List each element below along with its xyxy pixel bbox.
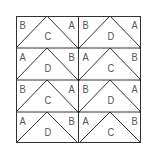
tile-label-left: B (20, 20, 26, 31)
tile-label-left: B (20, 84, 26, 95)
grid-lines (16, 16, 141, 143)
tile-label-left: B (83, 84, 89, 95)
tile-label-left: A (20, 52, 26, 63)
tile-label-center: C (108, 127, 115, 138)
tile-label-right: A (69, 20, 75, 31)
tile-label-center: D (45, 63, 52, 74)
tile-label-right: B (69, 52, 75, 63)
tile-label-center: C (45, 95, 52, 106)
triangle-tile-grid: B C A B D A A D B A C B B C A B D A A D … (16, 16, 141, 143)
tile-label-right: A (132, 20, 138, 31)
tile-label-right: B (69, 116, 75, 127)
tile-label-center: D (108, 31, 115, 42)
tile-label-right: B (132, 116, 138, 127)
tile-label-right: B (132, 52, 138, 63)
tile-label-left: B (83, 20, 89, 31)
tile-label-right: A (69, 84, 75, 95)
tile-label-left: A (83, 116, 89, 127)
tile-label-right: A (132, 84, 138, 95)
tile-label-center: C (45, 31, 52, 42)
tile-label-left: A (20, 116, 26, 127)
tile-label-center: D (45, 127, 52, 138)
tile-label-center: C (108, 63, 115, 74)
tile-label-left: A (83, 52, 89, 63)
tile-label-center: D (108, 95, 115, 106)
